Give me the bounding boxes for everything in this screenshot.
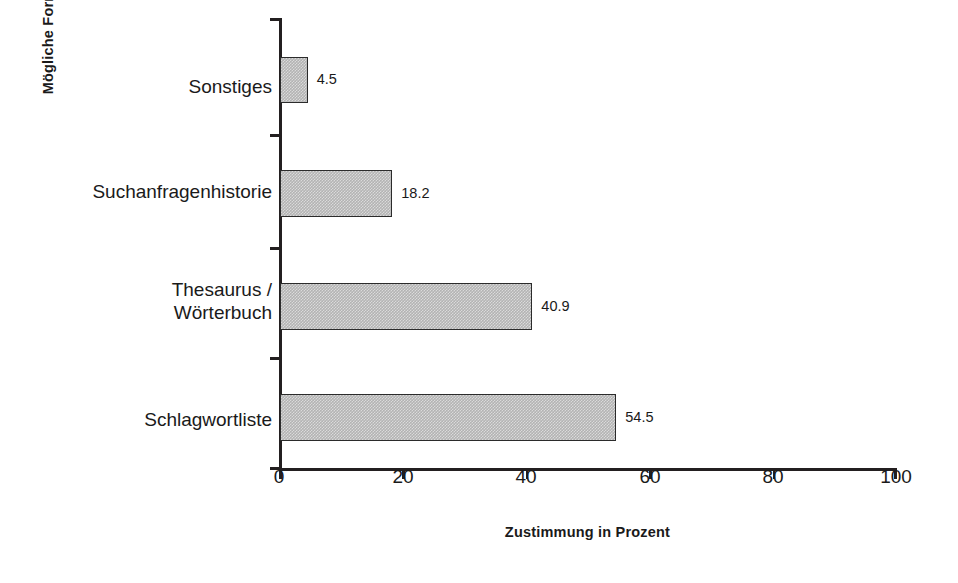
category-label-suchanfragenhistorie: Suchanfragenhistorie (12, 180, 272, 203)
bar-value-thesaurus-woerterbuch: 40.9 (541, 298, 569, 314)
bar-schlagwortliste[interactable] (280, 394, 616, 441)
bar-suchanfragenhistorie[interactable] (280, 170, 392, 217)
category-label-sonstiges: Sonstiges (12, 75, 272, 98)
category-label-thesaurus-woerterbuch: Thesaurus / Wörterbuch (12, 278, 272, 324)
y-axis-tick (270, 357, 280, 360)
category-label-line1: Suchanfragenhistorie (92, 181, 272, 202)
x-tick-label-80: 80 (733, 466, 813, 488)
category-label-line1: Schlagwortliste (144, 409, 272, 430)
bar-thesaurus-woerterbuch[interactable] (280, 283, 532, 330)
x-axis-title: Zustimmung in Prozent (279, 524, 896, 540)
x-tick-label-40: 40 (486, 466, 566, 488)
bar-value-sonstiges: 4.5 (317, 71, 337, 87)
bar-chart: Mögliche Formulierungshilfen Sonstiges S… (0, 0, 958, 583)
x-tick-label-60: 60 (610, 466, 690, 488)
x-tick-label-20: 20 (363, 466, 443, 488)
category-label-line2: Wörterbuch (174, 302, 272, 323)
bar-value-suchanfragenhistorie: 18.2 (401, 185, 429, 201)
category-label-schlagwortliste: Schlagwortliste (12, 408, 272, 431)
bar-value-schlagwortliste: 54.5 (625, 409, 653, 425)
y-axis-tick (270, 134, 280, 137)
x-tick-label-100: 100 (856, 466, 936, 488)
category-label-group: Sonstiges Suchanfragenhistorie Thesaurus… (0, 18, 272, 470)
x-tick-label-0: 0 (239, 466, 319, 488)
category-label-line1: Thesaurus / (172, 279, 272, 300)
bar-sonstiges[interactable] (280, 57, 308, 103)
plot-area: 4.5 18.2 40.9 54.5 (279, 18, 896, 470)
y-axis-tick (270, 247, 280, 250)
category-label-line1: Sonstiges (189, 76, 272, 97)
y-axis-top-tick (270, 18, 280, 21)
